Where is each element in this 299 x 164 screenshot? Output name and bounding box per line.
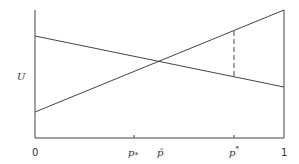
increasing-utility-line [35, 10, 284, 112]
y-axis-label: U [17, 71, 26, 82]
x-label-p-sup: p* [229, 145, 239, 158]
x-label-zero: 0 [32, 147, 38, 158]
x-label-one: 1 [281, 147, 287, 158]
p-sub-mark: * [134, 151, 138, 160]
x-label-p-sub: p* [128, 147, 138, 160]
p-sup-mark: * [235, 145, 239, 153]
x-label-p-hat: p̂ [157, 147, 164, 158]
utility-diagram: U 0 p* p̂ p* 1 [0, 0, 299, 164]
